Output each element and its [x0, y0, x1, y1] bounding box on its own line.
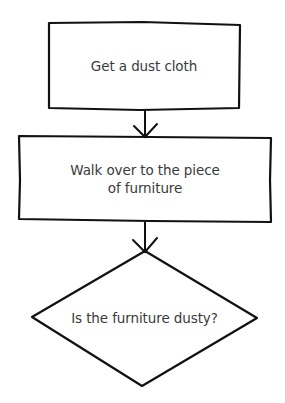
process-label-line-1: Walk over to the piece — [70, 161, 219, 179]
process-label-walk-to-furniture: Walk over to the piece of furniture — [19, 137, 271, 221]
arrow-down-icon — [133, 222, 157, 252]
arrow-down-icon — [134, 110, 157, 137]
decision-label-furniture-dusty: Is the furniture dusty? — [32, 306, 257, 330]
process-label-get-dust-cloth: Get a dust cloth — [49, 23, 239, 109]
process-label-line-2: of furniture — [108, 179, 182, 197]
flowchart-canvas: Get a dust cloth Walk over to the piece … — [0, 0, 285, 403]
